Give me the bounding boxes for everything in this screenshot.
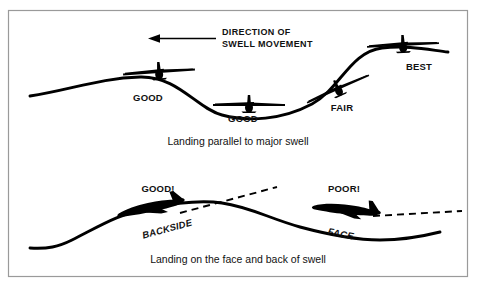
rating-label-poor-exclaim: POOR! bbox=[328, 183, 360, 194]
rating-label-good-exclaim: GOOD! bbox=[141, 183, 174, 194]
lower-diagram-caption: Landing on the face and back of swell bbox=[150, 253, 326, 265]
direction-note-line2: SWELL MOVEMENT bbox=[222, 39, 313, 49]
rating-label-fair: FAIR bbox=[331, 102, 353, 113]
figure-page: DIRECTION OF SWELL MOVEMENT bbox=[0, 0, 477, 286]
upper-diagram-caption: Landing parallel to major swell bbox=[167, 135, 308, 147]
swell-landing-diagram: DIRECTION OF SWELL MOVEMENT bbox=[0, 0, 477, 286]
direction-note-line1: DIRECTION OF bbox=[222, 27, 291, 37]
rating-label-good-1: GOOD bbox=[133, 92, 163, 103]
rating-label-best: BEST bbox=[406, 61, 432, 72]
rating-label-good-2: GOOD bbox=[228, 113, 258, 124]
